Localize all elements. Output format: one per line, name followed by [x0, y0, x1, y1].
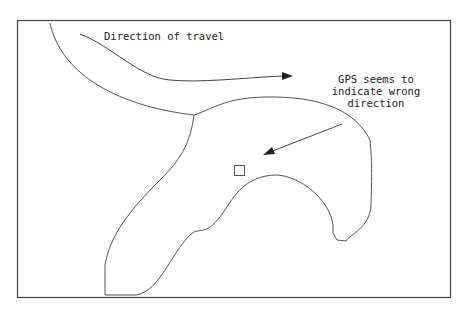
gps-note-line-1: GPS seems to: [330, 73, 422, 85]
arrowhead-travel-icon: [282, 72, 293, 80]
gps-pointer-arrow: [270, 124, 342, 152]
frame: [18, 21, 451, 298]
gps-note-line-3: direction: [330, 97, 422, 109]
road-outline-right: [105, 97, 372, 295]
direction-of-travel-label: Direction of travel: [104, 30, 224, 42]
gps-position-marker: [235, 166, 245, 176]
arrowhead-gps-icon: [263, 147, 275, 155]
gps-note-label: GPS seems to indicate wrong direction: [330, 73, 422, 109]
gps-note-line-2: indicate wrong: [330, 85, 422, 97]
road-diagram: [0, 0, 464, 312]
